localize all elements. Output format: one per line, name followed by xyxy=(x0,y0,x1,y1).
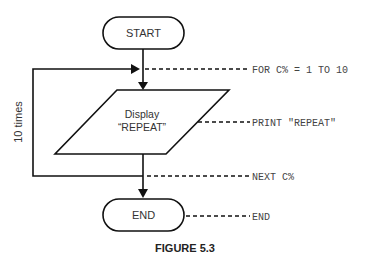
process-label-line1: Display xyxy=(125,108,160,120)
print-annotation: PRINT "REPEAT" xyxy=(252,118,336,129)
figure-caption: FIGURE 5.3 xyxy=(155,242,215,254)
end-label: END xyxy=(132,209,155,221)
flowchart-diagram: START 10 times FOR C% = 1 TO 10 Display … xyxy=(0,0,370,262)
arrow-down-icon xyxy=(138,82,148,90)
end-terminator: END xyxy=(103,199,184,231)
arrow-down-icon xyxy=(138,189,148,198)
start-terminator: START xyxy=(103,17,184,49)
next-annotation: NEXT C% xyxy=(252,172,294,183)
end-annotation: END xyxy=(252,212,270,223)
display-io-parallelogram: Display “REPEAT” xyxy=(55,90,229,154)
process-label-line2: “REPEAT” xyxy=(118,121,167,133)
for-annotation: FOR C% = 1 TO 10 xyxy=(252,65,348,76)
loop-count-label: 10 times xyxy=(12,101,24,143)
start-label: START xyxy=(126,27,161,39)
arrow-right-icon xyxy=(131,64,140,74)
